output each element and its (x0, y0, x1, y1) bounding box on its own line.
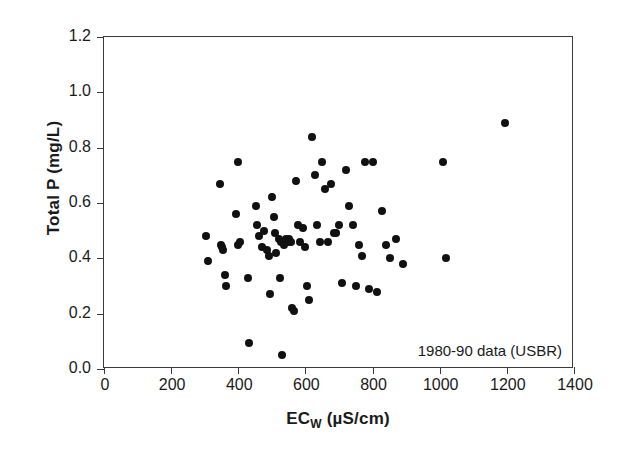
data-point (399, 260, 407, 268)
data-point (318, 158, 326, 166)
data-point (236, 238, 244, 246)
data-point (392, 235, 400, 243)
data-point (285, 235, 293, 243)
data-point (292, 177, 300, 185)
data-point (369, 158, 377, 166)
data-point (221, 271, 229, 279)
data-point (263, 246, 271, 254)
data-point (311, 171, 319, 179)
x-tick-label: 800 (360, 376, 387, 394)
data-point (277, 238, 285, 246)
scatter-plot-figure: Total P (mg/L) ECW (µS/cm) 0.00.20.40.60… (0, 0, 619, 451)
data-point (301, 243, 309, 251)
y-tick: 1.2 (97, 37, 104, 38)
data-point (202, 232, 210, 240)
data-point (439, 158, 447, 166)
y-tick-label: 1.2 (69, 27, 91, 45)
x-axis-title-units: (µS/cm) (322, 409, 390, 428)
data-point (308, 133, 316, 141)
data-point (218, 243, 226, 251)
data-point (255, 232, 263, 240)
data-point (266, 290, 274, 298)
y-tick: 0.4 (97, 258, 104, 259)
data-point (253, 221, 261, 229)
chart-annotation: 1980-90 data (USBR) (418, 342, 562, 359)
y-tick: 0.0 (97, 369, 104, 370)
data-point (270, 213, 278, 221)
data-point (327, 180, 335, 188)
y-tick-label: 0.6 (69, 193, 91, 211)
data-point (204, 257, 212, 265)
x-tick-label: 1200 (490, 376, 526, 394)
plot-area: 0.00.20.40.60.81.01.2 020040060080010001… (103, 36, 573, 368)
x-tick: 600 (305, 367, 306, 374)
x-tick-label: 400 (226, 376, 253, 394)
data-point (252, 202, 260, 210)
data-point (288, 304, 296, 312)
data-point (290, 307, 298, 315)
y-tick-label: 1.0 (69, 82, 91, 100)
data-point (284, 238, 292, 246)
x-tick-label: 1000 (423, 376, 459, 394)
data-point (282, 235, 290, 243)
data-point (324, 238, 332, 246)
data-point (373, 288, 381, 296)
data-point (245, 339, 253, 347)
x-tick: 1000 (440, 367, 441, 374)
y-axis-title: Total P (mg/L) (44, 28, 64, 328)
x-tick-label: 200 (159, 376, 186, 394)
y-tick: 0.6 (97, 203, 104, 204)
data-point (258, 243, 266, 251)
data-point (361, 158, 369, 166)
data-point (386, 254, 394, 262)
data-point (219, 246, 227, 254)
x-tick: 800 (373, 367, 374, 374)
data-point (232, 210, 240, 218)
y-tick-label: 0.4 (69, 248, 91, 266)
data-point (382, 241, 390, 249)
data-point (349, 221, 357, 229)
data-point (287, 238, 295, 246)
data-point (338, 279, 346, 287)
x-tick: 400 (238, 367, 239, 374)
data-point (365, 285, 373, 293)
data-point (345, 202, 353, 210)
data-point (244, 274, 252, 282)
data-point (268, 193, 276, 201)
data-point (234, 158, 242, 166)
x-tick-label: 0 (101, 376, 110, 394)
data-point (278, 351, 286, 359)
data-point (294, 221, 302, 229)
data-point (316, 238, 324, 246)
data-point (355, 241, 363, 249)
x-tick: 0 (104, 367, 105, 374)
x-axis-title-subscript: W (310, 417, 322, 431)
data-point (321, 185, 329, 193)
data-point (358, 252, 366, 260)
x-tick-label: 600 (293, 376, 320, 394)
y-tick: 0.2 (97, 314, 104, 315)
data-point (299, 224, 307, 232)
data-point (332, 229, 340, 237)
data-point (222, 282, 230, 290)
y-tick-label: 0.2 (69, 304, 91, 322)
data-point (313, 221, 321, 229)
data-point (330, 229, 338, 237)
x-axis-title: ECW (µS/cm) (103, 409, 573, 431)
x-tick: 200 (171, 367, 172, 374)
data-point (342, 166, 350, 174)
data-point-layer (104, 37, 572, 367)
x-axis-title-main: EC (286, 409, 310, 428)
data-point (378, 207, 386, 215)
data-point (501, 119, 509, 127)
data-point (217, 241, 225, 249)
data-point (260, 227, 268, 235)
data-point (276, 274, 284, 282)
data-point (234, 241, 242, 249)
data-point (442, 254, 450, 262)
data-point (272, 249, 280, 257)
data-point (335, 221, 343, 229)
data-point (265, 252, 273, 260)
data-point (275, 235, 283, 243)
y-tick: 0.8 (97, 148, 104, 149)
